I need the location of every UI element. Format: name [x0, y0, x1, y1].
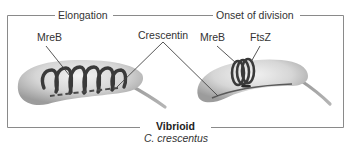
- leader-crescentin-right: [163, 42, 218, 96]
- diagram: Elongation Onset of division MreB Cresce…: [0, 0, 352, 144]
- label-mreb-right: MreB: [200, 31, 225, 43]
- leader-mreb-right: [217, 46, 236, 63]
- ring-shadow: [241, 84, 251, 87]
- panel-title-onset-of-division: Onset of division: [216, 9, 294, 21]
- leader-ftsz: [251, 46, 260, 62]
- label-crescentin: Crescentin: [138, 29, 188, 41]
- label-ftsz: FtsZ: [250, 31, 271, 43]
- caption-shape: Vibrioid: [140, 120, 211, 132]
- cell-elongation: [18, 60, 165, 107]
- caption-organism: C. crescentus: [136, 132, 216, 144]
- panel-title-elongation: Elongation: [58, 9, 108, 21]
- label-mreb-left: MreB: [37, 31, 62, 43]
- cell-division: [197, 59, 330, 104]
- stalk-right: [300, 80, 330, 104]
